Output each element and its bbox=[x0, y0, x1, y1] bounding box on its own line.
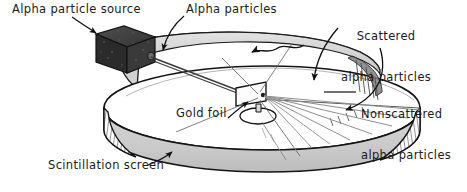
rutherford-experiment-figure: Alpha particle source Alpha particles Sc… bbox=[0, 0, 467, 192]
label-scattered-line1: Scattered bbox=[341, 30, 431, 44]
label-alpha-particle-source: Alpha particle source bbox=[12, 3, 141, 17]
gold-foil-stem bbox=[256, 104, 261, 112]
label-scintillation-screen: Scintillation screen bbox=[48, 159, 164, 173]
label-gold-foil: Gold foil bbox=[176, 107, 227, 121]
source-collimator-aperture bbox=[148, 52, 155, 60]
alpha-particle-source-box bbox=[96, 26, 155, 73]
label-alpha-particles: Alpha particles bbox=[186, 3, 277, 17]
leader-arrow-source bbox=[72, 17, 96, 33]
label-nonscattered-alpha-particles: Nonscattered alpha particles bbox=[361, 81, 451, 189]
wavy-arrow-alpha-path bbox=[252, 45, 304, 52]
label-nonscattered-line2: alpha particles bbox=[361, 149, 451, 163]
label-nonscattered-line1: Nonscattered bbox=[361, 108, 451, 122]
